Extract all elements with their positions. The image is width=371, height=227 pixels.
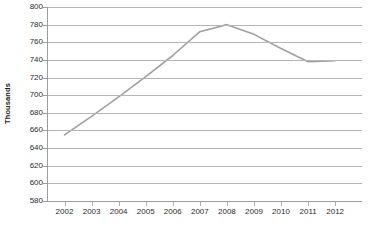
y-axis-tick-mark <box>43 183 47 184</box>
y-axis-title-label: Thousands <box>3 83 12 124</box>
y-axis-tick-mark <box>43 130 47 131</box>
plot-area <box>47 7 362 201</box>
x-axis-tick-mark <box>200 202 201 206</box>
y-axis-tick-mark <box>43 25 47 26</box>
x-axis-tick-label: 2009 <box>245 208 263 216</box>
x-axis-tick-mark <box>227 202 228 206</box>
y-axis-tick-label: 660 <box>30 126 43 134</box>
y-axis-tick-labels: 800780760740720700680660640620600580 <box>14 0 45 207</box>
gridline <box>47 148 362 149</box>
gridline <box>47 60 362 61</box>
x-axis-tick-mark <box>254 202 255 206</box>
y-axis-tick-label: 640 <box>30 144 43 152</box>
gridline <box>47 113 362 114</box>
gridline <box>47 130 362 131</box>
y-axis-title: Thousands <box>0 0 14 207</box>
x-axis-tick-label: 2008 <box>218 208 236 216</box>
x-axis-tick-label: 2004 <box>110 208 128 216</box>
x-axis-tick-mark <box>92 202 93 206</box>
gridline <box>47 78 362 79</box>
x-axis-tick-label: 2010 <box>272 208 290 216</box>
y-axis-tick-label: 780 <box>30 21 43 29</box>
x-axis-tick-mark <box>335 202 336 206</box>
gridline <box>47 25 362 26</box>
gridline <box>47 166 362 167</box>
gridline <box>47 201 362 202</box>
y-axis-tick-label: 580 <box>30 197 43 205</box>
y-axis-tick-label: 720 <box>30 74 43 82</box>
x-axis-tick-label: 2005 <box>137 208 155 216</box>
line-chart: Thousands 800780760740720700680660640620… <box>0 0 371 227</box>
gridline <box>47 183 362 184</box>
y-axis-tick-label: 740 <box>30 56 43 64</box>
y-axis-tick-label: 700 <box>30 91 43 99</box>
y-axis-tick-mark <box>43 7 47 8</box>
x-axis-tick-label: 2006 <box>164 208 182 216</box>
x-axis-tick-labels: 2002200320042005200620072008200920102011… <box>47 208 362 224</box>
gridline <box>47 7 362 8</box>
y-axis-tick-mark <box>43 78 47 79</box>
y-axis-tick-label: 800 <box>30 3 43 11</box>
y-axis-tick-label: 600 <box>30 179 43 187</box>
x-axis-tick-label: 2002 <box>56 208 74 216</box>
y-axis-tick-label: 680 <box>30 109 43 117</box>
x-axis-tick-label: 2007 <box>191 208 209 216</box>
x-axis-tick-mark <box>173 202 174 206</box>
y-axis-tick-mark <box>43 113 47 114</box>
x-axis-tick-mark <box>146 202 147 206</box>
x-axis-tick-mark <box>119 202 120 206</box>
y-axis-tick-mark <box>43 42 47 43</box>
x-axis-tick-mark <box>281 202 282 206</box>
y-axis-tick-label: 760 <box>30 38 43 46</box>
y-axis-line <box>47 7 48 202</box>
x-axis-tick-label: 2003 <box>83 208 101 216</box>
series-line <box>47 7 362 201</box>
x-axis-tick-mark <box>308 202 309 206</box>
y-axis-tick-mark <box>43 166 47 167</box>
y-axis-tick-mark <box>43 148 47 149</box>
y-axis-tick-mark <box>43 60 47 61</box>
x-axis-tick-label: 2012 <box>326 208 344 216</box>
y-axis-tick-mark <box>43 201 47 202</box>
x-axis-tick-label: 2011 <box>299 208 316 216</box>
series-polyline <box>65 25 336 135</box>
gridline <box>47 95 362 96</box>
x-axis-tick-mark <box>65 202 66 206</box>
gridline <box>47 42 362 43</box>
y-axis-tick-mark <box>43 95 47 96</box>
y-axis-tick-label: 620 <box>30 162 43 170</box>
